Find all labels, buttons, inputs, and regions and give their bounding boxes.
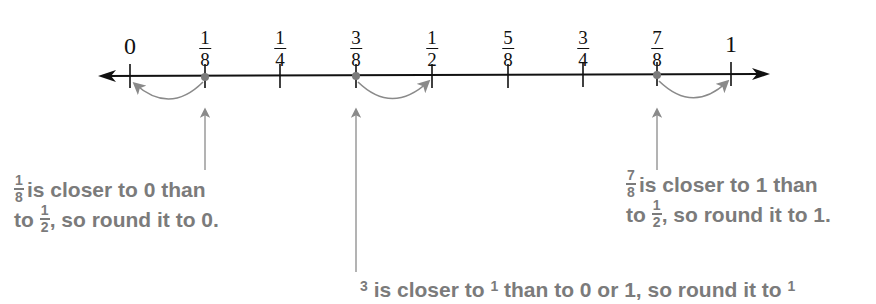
annotation-bottom: 3 is closer to 1 than to 0 or 1, so roun… xyxy=(360,278,795,304)
label-1-2: 12 xyxy=(425,28,439,69)
axis-line xyxy=(98,68,770,82)
label-5-8: 58 xyxy=(501,28,515,69)
annotation-right: 78is closer to 1 than to 12, so round it… xyxy=(626,171,831,231)
point-1-8 xyxy=(201,73,209,81)
label-3-8: 38 xyxy=(349,28,363,69)
round-arrow-7-8 xyxy=(659,81,727,98)
annotation-left: 18is closer to 0 than to 12, so round it… xyxy=(14,176,219,236)
round-arrow-3-8 xyxy=(358,82,428,99)
label-3-4: 34 xyxy=(576,28,590,69)
point-7-8 xyxy=(653,71,661,79)
label-0: 0 xyxy=(124,34,136,58)
label-1: 1 xyxy=(725,32,737,56)
round-arrow-1-8 xyxy=(135,82,203,99)
label-1-8: 18 xyxy=(198,28,212,69)
label-7-8: 78 xyxy=(650,28,664,69)
point-3-8 xyxy=(352,72,360,80)
label-1-4: 14 xyxy=(273,28,287,69)
